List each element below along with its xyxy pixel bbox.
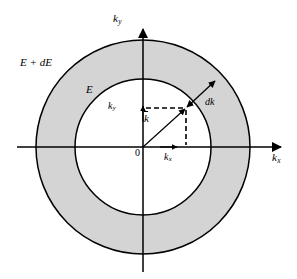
kspace-diagram-svg	[0, 0, 297, 279]
inner-energy-label: E	[86, 84, 93, 95]
wavevector-label: k	[144, 113, 149, 124]
ky-component-label-subscript: y	[113, 104, 116, 111]
y-axis-label: ky	[113, 13, 122, 25]
kx-component-label-subscript: x	[169, 155, 172, 162]
x-axis-label: kx	[272, 152, 281, 164]
kx-component-label: kx	[164, 152, 172, 163]
ky-component-label: ky	[108, 101, 116, 112]
origin-label: 0	[135, 148, 140, 158]
y-axis-label-subscript: y	[118, 17, 121, 26]
outer-energy-label: E + dE	[20, 57, 52, 68]
shell-thickness-label: dk	[205, 97, 214, 107]
kx-component-label-text: k	[164, 151, 168, 162]
wavevector-label-text: k	[144, 113, 149, 124]
energy-shell-region	[0, 0, 297, 279]
kspace-figure: E + dE E ky kx ky kx k dk 0	[0, 0, 297, 279]
ky-component-label-text: k	[108, 100, 112, 111]
x-axis-label-subscript: x	[277, 156, 280, 165]
